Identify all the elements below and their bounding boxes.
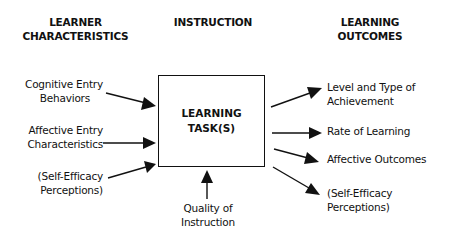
arrow-icon xyxy=(108,167,146,178)
arrowhead-icon xyxy=(143,137,156,149)
arrowhead-icon xyxy=(304,152,319,164)
arrowhead-icon xyxy=(141,97,156,110)
arrow-icon xyxy=(106,93,146,103)
arrow-icon xyxy=(271,93,310,107)
arrow-icon xyxy=(273,167,309,188)
arrow-icon xyxy=(274,149,308,158)
arrowhead-icon xyxy=(305,183,320,195)
arrowhead-icon xyxy=(144,161,156,173)
arrowhead-icon xyxy=(309,127,322,139)
arrowhead-icon xyxy=(201,170,213,183)
arrows-layer xyxy=(0,0,451,240)
arrowhead-icon xyxy=(307,87,322,99)
